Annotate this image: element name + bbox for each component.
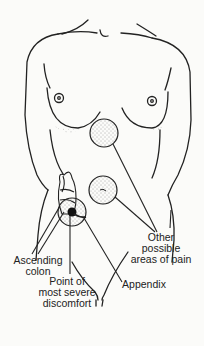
armpit-left bbox=[44, 64, 50, 88]
label-other-areas: Other possible areas of pain bbox=[128, 232, 194, 265]
label-point-of-discomfort: Point of most severe discomfort bbox=[37, 276, 97, 309]
label-line: Appendix bbox=[120, 279, 168, 290]
shade-left bbox=[54, 126, 80, 133]
clavicle-right bbox=[121, 33, 152, 38]
nipple-right bbox=[148, 97, 157, 106]
neck-right bbox=[137, 24, 156, 36]
torso-diagram bbox=[0, 0, 204, 346]
armpit-right bbox=[165, 68, 171, 90]
breast-right bbox=[122, 92, 168, 128]
label-ascending-colon: Ascending colon bbox=[12, 255, 64, 277]
label-line: areas of pain bbox=[128, 254, 194, 265]
groin-right bbox=[102, 252, 128, 300]
shoulder-right bbox=[152, 38, 191, 195]
breast-left bbox=[47, 88, 100, 128]
label-line: discomfort bbox=[37, 298, 97, 309]
label-appendix: Appendix bbox=[120, 279, 168, 290]
waist-right bbox=[152, 130, 160, 178]
pain-area-upper bbox=[90, 119, 118, 147]
hip-left bbox=[36, 190, 48, 260]
pain-area-navel bbox=[89, 176, 117, 204]
nipple-left bbox=[55, 94, 64, 103]
clavicle-notch bbox=[100, 30, 108, 36]
